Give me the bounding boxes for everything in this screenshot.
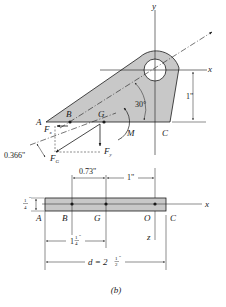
offset-dimension [37, 144, 45, 157]
GO-dimension-label: 1" [127, 173, 134, 182]
side-view: x 1 4 " 0.73" 1" A B G O C z [23, 167, 209, 270]
diagram-canvas: y x 1" 30° M A B G C Fx Fy [0, 0, 226, 307]
point-G [102, 120, 105, 123]
moment-label: M [126, 128, 135, 138]
point-G-label: G [98, 109, 105, 119]
resultant-force-arrow [56, 124, 100, 152]
AG-whole: 1 [70, 237, 74, 246]
side-point-B-label: B [62, 213, 68, 223]
side-point-C-label: C [170, 213, 177, 223]
x-axis-label: x [207, 64, 212, 74]
d-numerator: 1 [115, 256, 118, 261]
d-denominator: 2 [115, 262, 118, 267]
figure-caption: (b) [111, 285, 122, 295]
d-unit: " [119, 255, 121, 260]
d-prefix: d = 2 [88, 257, 108, 267]
AG-unit: " [79, 234, 81, 239]
side-point-A-label: A [35, 213, 42, 223]
point-A-label: A [35, 117, 42, 127]
y-axis-label: y [151, 1, 156, 11]
BG-dimension-label: 0.73" [79, 167, 96, 176]
AG-numerator: 1 [75, 235, 78, 240]
angle-label: 30° [135, 100, 146, 109]
force-x-label: Fx [43, 124, 53, 135]
point-C-label: C [162, 128, 169, 138]
point-B [68, 120, 71, 123]
side-x-axis-label: x [204, 199, 209, 209]
force-y-label: Fy [103, 146, 113, 157]
height-dimension-label: 1" [186, 92, 193, 101]
thickness-numerator: 1 [24, 198, 27, 203]
side-point-O-label: O [144, 213, 151, 223]
side-point-G-label: G [94, 213, 101, 223]
top-view: y x 1" 30° M A B G C Fx Fy [4, 1, 212, 164]
thickness-unit: " [29, 196, 31, 201]
resultant-force-label: FG [49, 153, 60, 164]
z-axis-label: z [146, 232, 151, 242]
side-point-O [153, 202, 156, 205]
offset-dimension-label: 0.366" [4, 151, 25, 160]
AG-denominator: 4 [75, 241, 78, 246]
point-B-label: B [66, 109, 72, 119]
thickness-denominator: 4 [24, 205, 27, 210]
